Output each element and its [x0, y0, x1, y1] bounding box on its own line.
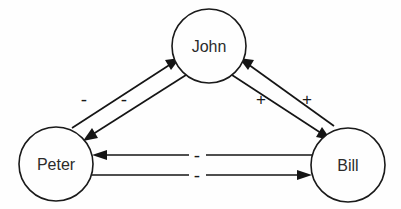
- node-peter-label: Peter: [37, 156, 76, 173]
- sign-label-john-bill-inner: +: [256, 90, 266, 109]
- edge-peter-to-bill-arrowhead: [297, 170, 312, 180]
- edge-john-to-peter[interactable]: [83, 75, 186, 141]
- edge-john-to-bill[interactable]: [232, 75, 331, 140]
- sign-label-peter-john-outer: -: [81, 89, 87, 110]
- node-bill-label: Bill: [337, 157, 358, 174]
- sign-label-peter-bill-top: -: [194, 145, 200, 166]
- edge-john-to-peter-line: [90, 75, 186, 136]
- sign-label-peter-john-inner: -: [121, 89, 127, 110]
- diagram-canvas: John Peter Bill - - + + - -: [0, 0, 401, 209]
- node-peter[interactable]: Peter: [19, 127, 93, 201]
- sign-label-john-bill-outer: +: [302, 90, 312, 109]
- edge-bill-to-peter[interactable]: [92, 150, 312, 160]
- node-john[interactable]: John: [172, 9, 246, 83]
- edge-bill-to-peter-arrowhead: [92, 150, 107, 160]
- node-bill[interactable]: Bill: [311, 128, 385, 202]
- edge-bill-to-john[interactable]: [239, 58, 334, 126]
- node-john-label: John: [192, 38, 227, 55]
- edge-john-to-peter-arrowhead: [83, 128, 98, 141]
- edge-peter-to-bill[interactable]: [92, 170, 312, 180]
- sign-label-peter-bill-bottom: -: [194, 165, 200, 186]
- causal-loop-diagram: John Peter Bill - - + + - -: [0, 0, 401, 209]
